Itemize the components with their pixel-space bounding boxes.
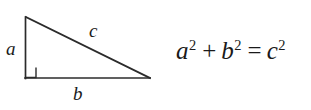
- triangle-hypotenuse: [26, 17, 150, 78]
- equation-operator-plus: +: [202, 37, 216, 64]
- equation-term-c: c: [267, 37, 278, 64]
- equation-operator-equals: =: [248, 37, 262, 64]
- pythagorean-equation: a2+b2=c2: [176, 38, 286, 63]
- side-label-b: b: [73, 84, 83, 103]
- side-label-c: c: [89, 21, 97, 40]
- equation-exponent-a: 2: [189, 37, 196, 53]
- right-triangle-diagram: a c b: [0, 0, 170, 110]
- equation-exponent-c: 2: [278, 37, 285, 53]
- equation-term-b: b: [221, 37, 234, 64]
- side-label-a: a: [6, 39, 16, 58]
- equation-term-a: a: [176, 37, 189, 64]
- right-angle-marker-icon: [26, 68, 37, 78]
- equation-exponent-b: 2: [234, 37, 241, 53]
- triangle-drawing: [0, 0, 170, 110]
- pythagorean-theorem-figure: a c b a2+b2=c2: [0, 0, 311, 110]
